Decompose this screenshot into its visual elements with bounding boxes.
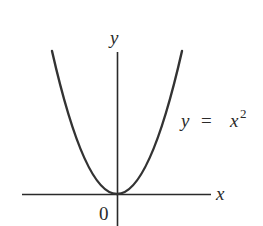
x-axis-label: x [215, 183, 225, 204]
origin-label: 0 [99, 203, 109, 224]
y-axis-label: y [108, 27, 119, 48]
parabola-diagram: y x 0 y = x 2 [0, 0, 263, 226]
curve-equation: y = x 2 [179, 106, 247, 131]
equation-base: x [229, 110, 239, 131]
equation-lhs: y [179, 110, 190, 131]
equation-equals: = [201, 110, 212, 131]
equation-exponent: 2 [240, 106, 247, 121]
